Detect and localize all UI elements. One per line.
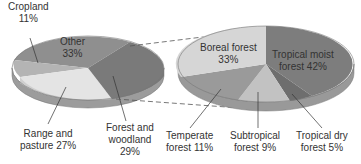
- label-text: Cropland: [8, 1, 49, 13]
- label-subtropical: Subtropical forest 9%: [230, 130, 280, 154]
- label-text: Range and: [20, 128, 76, 140]
- label-text: Subtropical: [230, 130, 280, 142]
- label-text: Boreal forest: [200, 42, 257, 54]
- label-other: Other 33%: [60, 36, 85, 60]
- label-text: 11%: [8, 13, 49, 25]
- label-text: 33%: [200, 54, 257, 66]
- label-range: Range and pasture 27%: [20, 128, 76, 152]
- label-cropland: Cropland 11%: [8, 1, 49, 25]
- label-text: forest 9%: [230, 142, 280, 154]
- label-text: Tropical dry: [296, 130, 348, 142]
- label-text: Temperate: [166, 130, 213, 142]
- label-text: 29%: [106, 146, 154, 158]
- label-tropical-dry: Tropical dry forest 5%: [296, 130, 348, 154]
- label-text: pasture 27%: [20, 140, 76, 152]
- label-temperate: Temperate forest 11%: [166, 130, 213, 154]
- label-text: Tropical moist: [272, 49, 334, 61]
- label-boreal: Boreal forest 33%: [200, 42, 257, 66]
- label-text: forest 5%: [296, 142, 348, 154]
- label-text: Forest and: [106, 122, 154, 134]
- label-tropical-moist: Tropical moist forest 42%: [272, 49, 334, 73]
- label-text: forest 42%: [272, 61, 334, 73]
- label-text: forest 11%: [166, 142, 213, 154]
- left-pie: [12, 36, 164, 124]
- label-text: 33%: [60, 48, 85, 60]
- label-forest-woodland: Forest and woodland 29%: [106, 122, 154, 158]
- label-text: woodland: [106, 134, 154, 146]
- label-text: Other: [60, 36, 85, 48]
